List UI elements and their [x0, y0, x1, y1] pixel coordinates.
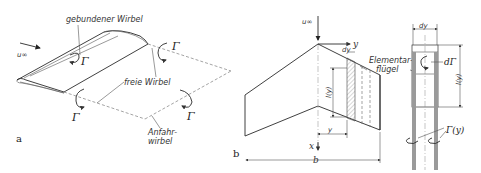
panel-b-label: b [233, 148, 239, 159]
circulation-symbol-start: Γ [186, 110, 195, 123]
chord-label: l(y) [325, 86, 333, 98]
starting-vortex-label-2: wirbel [148, 137, 173, 146]
element-wing-strip [347, 58, 355, 121]
freestream-arrow-icon [20, 43, 40, 48]
circulation-symbol: Γ [80, 55, 89, 68]
lifting-line-figure: u∞ gebundener Wirbel Γ [0, 0, 481, 173]
circulation-symbol-right: Γ [171, 40, 180, 53]
element-wing-label-1: Elementar- [369, 56, 413, 65]
freestream-label: u∞ [17, 51, 27, 59]
element-wing-label-2: flügel [376, 65, 399, 74]
panel-c-horseshoe-vortex: dy dΓ l(y) Γ(y) [406, 22, 464, 170]
panel-a-label: a [16, 133, 22, 144]
wing-trailing-edge [245, 95, 380, 136]
trailing-vortex-right [434, 52, 438, 170]
bound-vortex-label: gebundener Wirbel [66, 15, 143, 24]
bound-vortex-leader [78, 25, 80, 55]
y-dimension-label: y [327, 126, 333, 134]
diagram-canvas: u∞ gebundener Wirbel Γ [0, 0, 481, 173]
panel-a-wing-vortex-system: u∞ gebundener Wirbel Γ [16, 15, 231, 146]
tip-vortex-left-icon [76, 89, 84, 107]
span-label: b [313, 155, 319, 165]
starting-vortex-label-1: Anfahr- [147, 128, 177, 137]
wing-leading-edge [245, 44, 380, 130]
panel-b-wing-planform: u∞ y dy l(y) y x b [233, 16, 416, 165]
free-vortex-label: freie Wirbel [124, 78, 171, 87]
d-gamma-label: dΓ [444, 57, 457, 67]
free-vortex-right [148, 44, 231, 71]
d-gamma-circulation-icon [421, 56, 428, 68]
dy-label-c: dy [419, 22, 428, 30]
freestream-label-b: u∞ [302, 18, 312, 26]
trailing-vortex-left [412, 52, 416, 170]
chord-label-c: l(y) [455, 73, 463, 85]
dy-label: dy [342, 46, 351, 54]
tip-vortex-right-icon [158, 43, 167, 60]
y-axis-label: y [352, 39, 359, 49]
gamma-y-label: Γ(y) [445, 125, 465, 135]
circulation-symbol-left: Γ [71, 111, 80, 124]
x-axis-label: x [309, 141, 314, 151]
